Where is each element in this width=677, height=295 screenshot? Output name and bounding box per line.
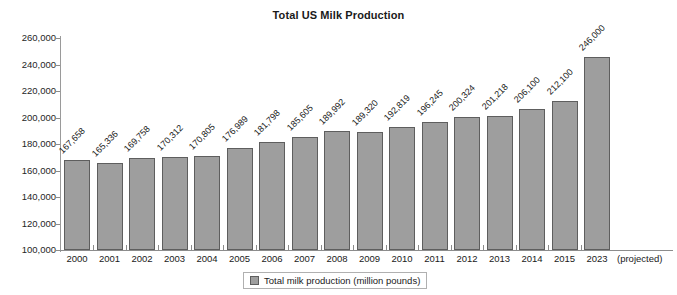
x-axis-tick-mark <box>548 245 549 251</box>
y-axis: 260,000240,000220,000200,000180,000160,0… <box>0 0 56 295</box>
bar-group: 176,989 <box>227 38 253 250</box>
bar-value-label: 169,758 <box>122 123 152 153</box>
bar[interactable] <box>357 132 383 250</box>
bar-value-label: 185,605 <box>284 102 314 132</box>
bar[interactable] <box>454 117 480 250</box>
x-axis-tick-mark <box>386 245 387 251</box>
y-axis-tick-label: 100,000 <box>6 245 56 255</box>
bar-value-label: 206,100 <box>512 75 542 105</box>
y-axis-tick-label: 220,000 <box>6 86 56 96</box>
x-axis-tick-mark <box>451 245 452 251</box>
x-axis-tick-mark <box>581 245 582 251</box>
bar-value-label: 165,336 <box>89 129 119 159</box>
x-axis-tick-mark <box>321 245 322 251</box>
y-axis-tick-label: 200,000 <box>6 113 56 123</box>
y-axis-tick-label: 120,000 <box>6 219 56 229</box>
y-axis-tick-label: 140,000 <box>6 192 56 202</box>
bar[interactable] <box>584 57 610 250</box>
legend-label: Total milk production (million pounds) <box>264 275 420 286</box>
bar-value-label: 212,100 <box>544 67 574 97</box>
y-axis-tick-label: 260,000 <box>6 33 56 43</box>
bar-group: 206,100 <box>519 38 545 250</box>
x-axis-tick-mark <box>516 245 517 251</box>
bar[interactable] <box>324 131 350 250</box>
bar-value-label: 189,320 <box>349 97 379 127</box>
projected-annotation: (projected) <box>617 253 662 264</box>
bar-group: 169,758 <box>129 38 155 250</box>
bar-value-label: 196,245 <box>414 88 444 118</box>
bar-group: 185,605 <box>292 38 318 250</box>
x-axis-tick-mark <box>288 245 289 251</box>
bar-value-label: 181,798 <box>252 107 282 137</box>
bar-group: 189,320 <box>357 38 383 250</box>
x-axis-tick-mark <box>191 245 192 251</box>
bar[interactable] <box>552 101 578 250</box>
chart-container: Total US Milk Production 260,000240,0002… <box>0 0 677 295</box>
bar-group: 189,992 <box>324 38 350 250</box>
bar-value-label: 170,805 <box>187 122 217 152</box>
bar-group: 192,819 <box>389 38 415 250</box>
bar[interactable] <box>389 127 415 250</box>
x-axis-tick-mark <box>158 245 159 251</box>
x-axis-tick-label: 2023 <box>577 253 617 264</box>
y-axis-tick-label: 180,000 <box>6 139 56 149</box>
x-axis-tick-mark <box>353 245 354 251</box>
bar-group: 200,324 <box>454 38 480 250</box>
bar[interactable] <box>487 116 513 250</box>
x-axis-tick-mark <box>126 245 127 251</box>
bar-value-label: 192,819 <box>382 93 412 123</box>
bar-value-label: 170,312 <box>154 123 184 153</box>
bar-group: 170,805 <box>194 38 220 250</box>
chart-title: Total US Milk Production <box>0 9 677 21</box>
bar-group: 196,245 <box>422 38 448 250</box>
bar-group: 212,100 <box>552 38 578 250</box>
bar-group: 181,798 <box>259 38 285 250</box>
bar[interactable] <box>422 122 448 250</box>
bar-value-label: 189,992 <box>317 96 347 126</box>
bar[interactable] <box>519 109 545 250</box>
bar[interactable] <box>259 142 285 250</box>
bar-group: 167,658 <box>64 38 90 250</box>
bar-group: 201,218 <box>487 38 513 250</box>
bar-group: 170,312 <box>162 38 188 250</box>
plot-area: 167,658165,336169,758170,312170,805176,9… <box>60 38 612 250</box>
bar[interactable] <box>194 156 220 250</box>
legend-swatch-icon <box>250 276 259 285</box>
bar-value-label: 201,218 <box>479 82 509 112</box>
bar-group: 165,336 <box>97 38 123 250</box>
y-axis-tick-label: 240,000 <box>6 60 56 70</box>
y-axis-tick-label: 160,000 <box>6 166 56 176</box>
bar[interactable] <box>292 137 318 250</box>
bar-value-label: 200,324 <box>447 83 477 113</box>
bar-value-label: 176,989 <box>219 114 249 144</box>
x-axis-tick-mark <box>483 245 484 251</box>
bar[interactable] <box>97 163 123 250</box>
x-axis-tick-mark <box>256 245 257 251</box>
x-axis-tick-mark <box>223 245 224 251</box>
bar-group: 246,000 <box>584 38 610 250</box>
chart-legend: Total milk production (million pounds) <box>243 272 427 289</box>
bar-value-label: 167,658 <box>57 126 87 156</box>
x-axis-tick-mark <box>93 245 94 251</box>
x-axis-tick-mark <box>418 245 419 251</box>
bar[interactable] <box>162 157 188 250</box>
bar[interactable] <box>64 160 90 250</box>
bar-value-label: 246,000 <box>577 22 607 52</box>
bar[interactable] <box>129 158 155 250</box>
bar[interactable] <box>227 148 253 250</box>
